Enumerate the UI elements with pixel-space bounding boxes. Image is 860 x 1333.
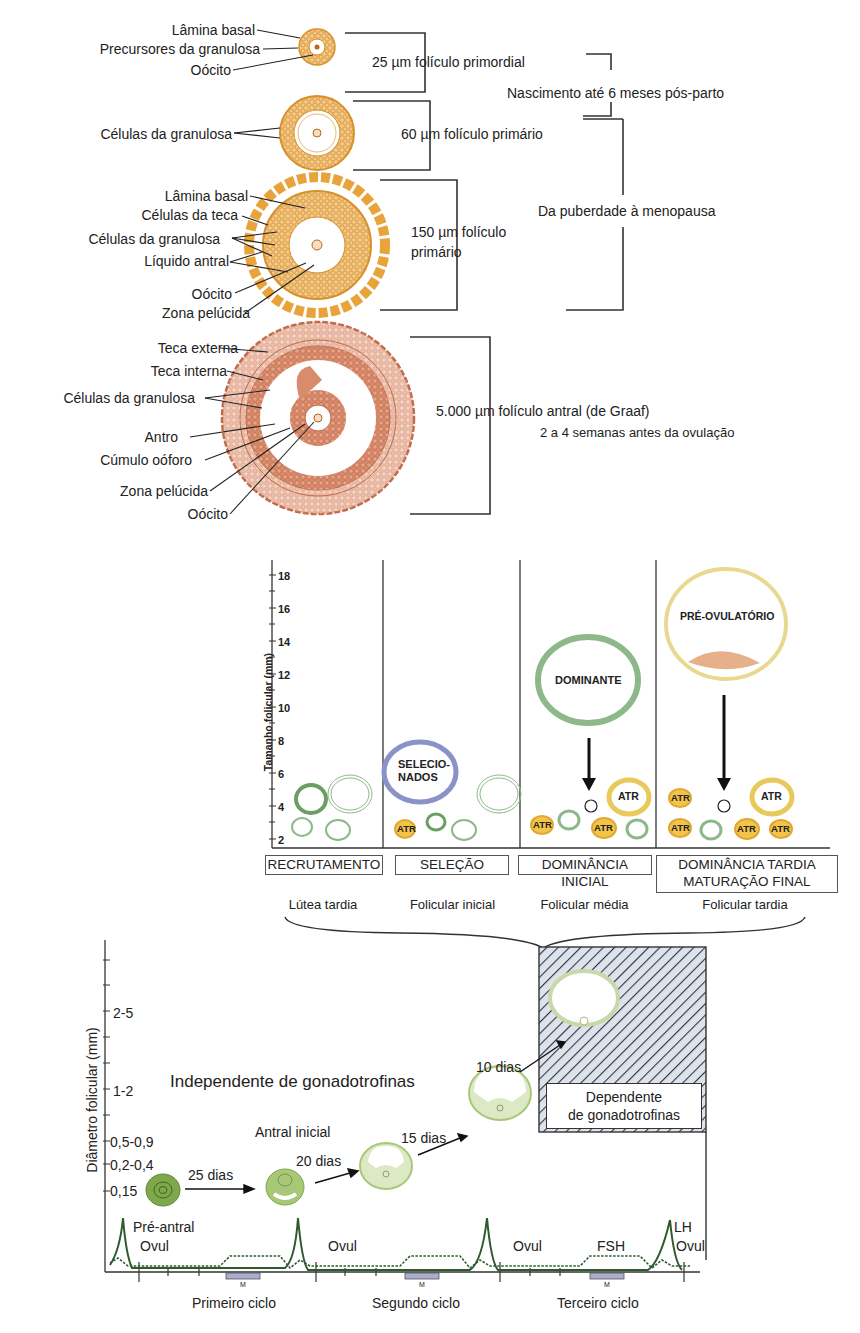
tick-8: 8 — [278, 733, 290, 750]
atr-6: ATR — [761, 790, 782, 802]
tick-0-5-0-9: 0,5-0,9 — [110, 1134, 154, 1150]
atr-9: ATR — [771, 823, 790, 834]
size-label-antral: 5.000 µm folículo antral (de Graaf) — [436, 403, 650, 419]
label-celulas-granulosa-1: Células da granulosa — [100, 126, 232, 142]
duration-15-dias: 15 dias — [401, 1130, 446, 1146]
label-precursores-granulosa: Precursores da granulosa — [100, 41, 260, 57]
stage-dominancia-inicial: DOMINÂNCIA INICIAL — [518, 855, 652, 875]
tick-12: 12 — [278, 667, 290, 684]
atr-3: ATR — [618, 790, 639, 802]
lh-label: LH — [674, 1219, 692, 1235]
tick-6: 6 — [278, 766, 290, 783]
label-zona-pelucida-1: Zona pelúcida — [162, 305, 250, 321]
label-teca-externa: Teca externa — [158, 340, 238, 356]
menses-label-3: M — [604, 1281, 610, 1288]
tick-14: 14 — [278, 634, 290, 651]
stage-recrutamento: RECRUTAMENTO — [265, 855, 383, 875]
period-birth-label: Nascimento até 6 meses pós-parto — [507, 85, 724, 101]
duration-10-dias: 10 dias — [476, 1059, 521, 1075]
y-axis-label-size: Tamanho folicular (mm) — [262, 632, 274, 792]
dominant-follicle-label: DOMINANTE — [555, 674, 622, 686]
cycle-segundo: Segundo ciclo — [372, 1295, 460, 1311]
tick-16: 16 — [278, 601, 290, 618]
stage-selecao: SELEÇÃO — [395, 855, 509, 875]
preovulatory-follicle-label: PRÉ-OVULATÓRIO — [680, 610, 774, 622]
primary-follicle-150 — [249, 177, 385, 313]
label-teca-interna: Teca interna — [151, 363, 227, 379]
tick-2-5: 2-5 — [113, 1005, 133, 1021]
label-antro: Antro — [145, 429, 178, 445]
size-label-primary-150-l1: 150 µm folículo — [411, 224, 506, 240]
label-celulas-granulosa-3: Células da granulosa — [63, 390, 195, 406]
atr-4: ATR — [594, 822, 613, 833]
tick-0-15: 0,15 — [110, 1183, 137, 1199]
atr-8: ATR — [737, 823, 756, 834]
size-label-primary-150-l2: primário — [411, 244, 462, 260]
duration-25-dias: 25 dias — [188, 1167, 233, 1183]
dependent-l2: de gonadotrofinas — [547, 1106, 701, 1124]
atr-1: ATR — [397, 823, 416, 834]
stage-pre-antral: Pré-antral — [133, 1219, 194, 1235]
period-puberty-label: Da puberdade à menopausa — [538, 203, 715, 219]
atr-7: ATR — [671, 822, 690, 833]
y-ticks-b: 18 16 14 12 10 8 6 4 2 — [278, 568, 290, 849]
selected-follicle-label: SELECIO- NADOS — [398, 758, 450, 784]
menses-label-1: M — [240, 1281, 246, 1288]
ovul-label-4: Ovul — [676, 1238, 705, 1254]
phase-folicular-tardia: Folicular tardia — [680, 897, 810, 912]
dependent-label-box: Dependente de gonadotrofinas — [546, 1083, 702, 1129]
atr-2: ATR — [533, 819, 552, 830]
selected-l2: NADOS — [398, 771, 450, 784]
duration-20-dias: 20 dias — [296, 1153, 341, 1169]
timing-label-antral: 2 a 4 semanas antes da ovulação — [540, 425, 734, 441]
label-oocito-1: Oócito — [191, 62, 231, 78]
ovul-label-1: Ovul — [140, 1238, 169, 1254]
primordial-follicle — [299, 29, 335, 65]
y-axis-label-diameter: Diâmetro folicular (mm) — [84, 1000, 100, 1200]
size-label-primordial: 25 µm folículo primordial — [372, 54, 525, 70]
phase-folicular-inicial: Folicular inicial — [390, 897, 515, 912]
ovul-label-2: Ovul — [328, 1238, 357, 1254]
stage-dominancia-tardia-l1: DOMINÂNCIA TARDIA — [657, 856, 837, 873]
menses-label-2: M — [419, 1281, 425, 1288]
label-oocito-2: Oócito — [192, 286, 232, 302]
tick-10: 10 — [278, 700, 290, 717]
cycle-primeiro: Primeiro ciclo — [192, 1295, 276, 1311]
label-liquido-antral: Líquido antral — [144, 253, 229, 269]
stage-dominancia-tardia-l2: MATURAÇÃO FINAL — [657, 873, 837, 890]
phase-lutea-tardia: Lútea tardia — [263, 897, 383, 912]
stage-antral-inicial: Antral inicial — [255, 1124, 330, 1140]
tick-1-2: 1-2 — [113, 1083, 133, 1099]
cycle-terceiro: Terceiro ciclo — [557, 1295, 639, 1311]
tick-0-2-0-4: 0,2-0,4 — [110, 1157, 154, 1173]
label-cumulo-ooforo: Cúmulo oóforo — [100, 452, 192, 468]
ovul-label-3: Ovul — [513, 1238, 542, 1254]
selected-l1: SELECIO- — [398, 758, 450, 771]
label-lamina-basal-1: Lâmina basal — [172, 22, 255, 38]
atr-5: ATR — [671, 792, 690, 803]
tick-2: 2 — [278, 832, 290, 849]
primary-follicle-60 — [280, 96, 354, 170]
dependent-l1: Dependente — [547, 1088, 701, 1106]
phase-folicular-media: Folicular média — [522, 897, 647, 912]
label-celulas-granulosa-2: Células da granulosa — [88, 231, 220, 247]
label-celulas-teca: Células da teca — [141, 207, 238, 223]
size-label-primary-60: 60 µm folículo primário — [401, 126, 543, 142]
label-zona-pelucida-2: Zona pelúcida — [120, 483, 208, 499]
label-lamina-basal-2: Lâmina basal — [165, 188, 248, 204]
tick-18: 18 — [278, 568, 290, 585]
tick-4: 4 — [278, 799, 290, 816]
stage-dominancia-tardia: DOMINÂNCIA TARDIA MATURAÇÃO FINAL — [656, 855, 838, 893]
fsh-label: FSH — [597, 1238, 625, 1254]
label-oocito-3: Oócito — [188, 506, 228, 522]
menses-markers — [226, 1273, 624, 1279]
independent-label: Independente de gonadotrofinas — [170, 1072, 415, 1092]
fsh-curve — [110, 1256, 690, 1268]
grouping-brace — [285, 917, 805, 948]
